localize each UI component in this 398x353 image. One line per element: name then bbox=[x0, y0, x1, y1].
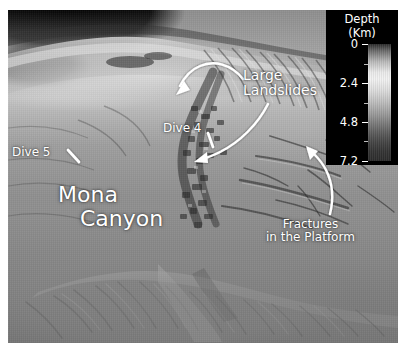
colorbar-minor-tick bbox=[364, 141, 368, 142]
colorbar-tick-label: 4.8 bbox=[340, 115, 358, 129]
dive-5-tick bbox=[68, 150, 79, 162]
annotation-fractures-line1: Fractures bbox=[283, 217, 339, 231]
colorbar-title-line2: (Km) bbox=[326, 27, 398, 41]
colorbar-tick-label: 7.2 bbox=[340, 154, 358, 168]
annotation-mona-canyon-line1: Mona bbox=[58, 182, 118, 207]
annotation-fractures-line2: in the Platform bbox=[266, 231, 355, 244]
colorbar-stripe-texture bbox=[368, 44, 391, 161]
colorbar-title: Depth (Km) bbox=[326, 13, 398, 40]
colorbar-minor-tick bbox=[364, 64, 368, 65]
colorbar-gradient bbox=[368, 44, 391, 161]
colorbar-tick bbox=[362, 83, 368, 84]
annotation-large-landslides: Large Landslides bbox=[243, 68, 317, 97]
colorbar-tick bbox=[362, 161, 368, 162]
colorbar-tick bbox=[362, 122, 368, 123]
landslide-lower-arrow bbox=[194, 104, 268, 163]
annotation-mona-canyon: Mona Canyon bbox=[58, 183, 163, 230]
dive-4-tick bbox=[208, 133, 213, 147]
annotation-dive-4: Dive 4 bbox=[163, 122, 202, 135]
annotation-mona-canyon-line2: Canyon bbox=[80, 207, 163, 230]
colorbar-title-line1: Depth bbox=[344, 12, 379, 26]
colorbar-tick-label: 0 bbox=[351, 37, 358, 51]
large-landslides-arrow bbox=[176, 63, 243, 95]
annotation-dive-5: Dive 5 bbox=[12, 146, 51, 159]
annotation-fractures-in-the-platform: Fractures in the Platform bbox=[266, 218, 355, 243]
figure-root: Large Landslides Dive 4 Dive 5 Mona Cany… bbox=[0, 0, 398, 353]
colorbar-tick bbox=[362, 44, 368, 45]
depth-colorbar-panel: Depth (Km) 02.44.87.2 bbox=[326, 10, 398, 165]
annotation-large-landslides-line1: Large bbox=[243, 67, 282, 83]
annotation-large-landslides-line2: Landslides bbox=[243, 83, 317, 98]
colorbar-minor-tick bbox=[364, 103, 368, 104]
colorbar-tick-label: 2.4 bbox=[340, 76, 358, 90]
